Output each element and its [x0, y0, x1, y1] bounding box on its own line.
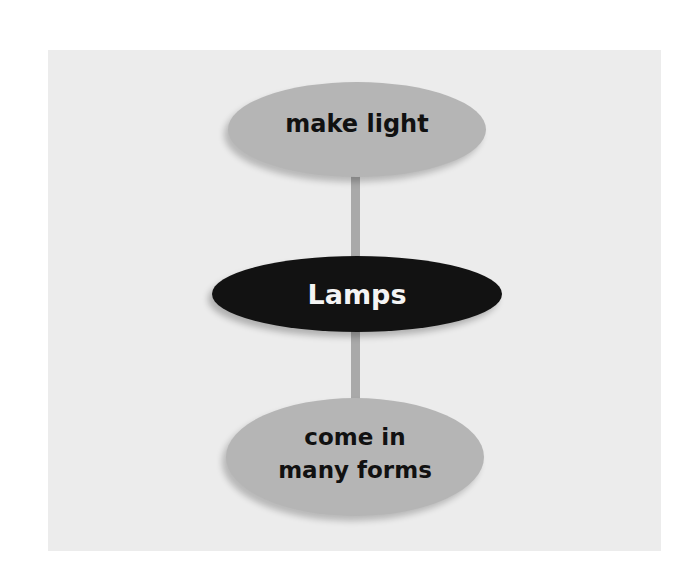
node-lamps-center: Lamps [212, 256, 502, 332]
node-label: make light [285, 110, 428, 138]
node-come-in-many-forms: come in many forms [226, 398, 484, 516]
node-label: come in many forms [266, 421, 444, 487]
node-make-light: make light [228, 82, 486, 177]
connector-top [351, 170, 360, 262]
connector-bottom [351, 325, 360, 405]
node-label: Lamps [308, 279, 407, 310]
